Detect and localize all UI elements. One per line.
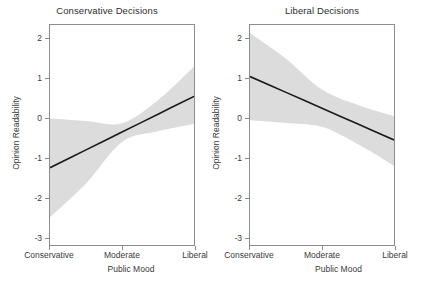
panel-conservative-decisions: Conservative Decisions Opinion Readabili… <box>0 0 214 295</box>
x-axis-label: Public Mood <box>215 264 429 274</box>
plot-area <box>49 24 195 246</box>
x-tick-label-moderate: Moderate <box>304 250 340 260</box>
confidence-band <box>50 67 194 218</box>
y-tick-label-m1: -1 <box>20 154 42 163</box>
y-tick-label-1: 1 <box>20 74 42 83</box>
x-tick-label-liberal: Liberal <box>382 250 408 260</box>
y-tick-label-m3: -3 <box>20 234 42 243</box>
x-tick-label-conservative: Conservative <box>224 250 274 260</box>
y-tick-label-2: 2 <box>220 34 242 43</box>
y-tick-label-m2: -2 <box>220 194 242 203</box>
plot-svg <box>50 25 194 245</box>
y-tick-label-2: 2 <box>20 34 42 43</box>
y-tick-label-m2: -2 <box>20 194 42 203</box>
y-axis-label: Opinion Readability <box>211 83 221 183</box>
figure-container: Conservative Decisions Opinion Readabili… <box>0 0 429 295</box>
panel-liberal-decisions: Liberal Decisions Opinion Readability 2 … <box>215 0 429 295</box>
plot-area <box>249 24 395 246</box>
x-tick-label-liberal: Liberal <box>182 250 208 260</box>
panel-title: Conservative Decisions <box>0 5 214 16</box>
confidence-band <box>250 33 394 166</box>
x-tick-label-conservative: Conservative <box>24 250 74 260</box>
x-tick-label-moderate: Moderate <box>104 250 140 260</box>
y-tick-label-0: 0 <box>20 114 42 123</box>
x-axis-label: Public Mood <box>0 264 214 274</box>
y-tick-label-m1: -1 <box>220 154 242 163</box>
y-tick-label-m3: -3 <box>220 234 242 243</box>
y-tick-label-0: 0 <box>220 114 242 123</box>
plot-svg <box>250 25 394 245</box>
y-tick-label-1: 1 <box>220 74 242 83</box>
panel-title: Liberal Decisions <box>215 5 429 16</box>
y-axis-label: Opinion Readability <box>11 83 21 183</box>
